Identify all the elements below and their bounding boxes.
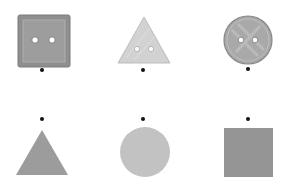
connection-dot[interactable] bbox=[40, 68, 44, 72]
button-hole bbox=[134, 46, 139, 51]
circle-shape[interactable] bbox=[120, 127, 170, 177]
square-shape[interactable] bbox=[224, 128, 273, 177]
connection-dot[interactable] bbox=[141, 68, 145, 72]
connection-dot[interactable] bbox=[246, 117, 250, 121]
triangle-button[interactable] bbox=[118, 17, 170, 63]
button-hole bbox=[32, 37, 38, 43]
connection-dot[interactable] bbox=[141, 117, 145, 121]
circle-button[interactable] bbox=[224, 16, 272, 64]
shape-matching-figure bbox=[0, 0, 287, 182]
button-hole bbox=[49, 37, 55, 43]
connection-dot[interactable] bbox=[40, 117, 44, 121]
triangle-shape[interactable] bbox=[16, 130, 68, 175]
connection-dot[interactable] bbox=[246, 67, 250, 71]
button-hole bbox=[252, 37, 258, 43]
button-hole bbox=[238, 37, 244, 43]
button-hole bbox=[148, 46, 153, 51]
square-button[interactable] bbox=[18, 15, 70, 67]
